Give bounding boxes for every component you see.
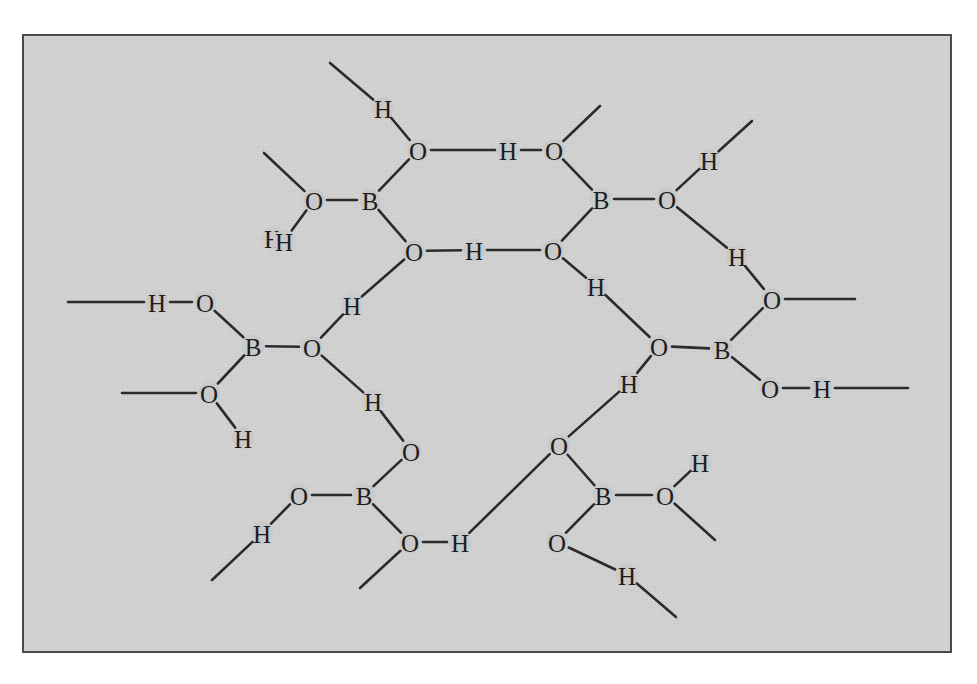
atom-label-H6b: H [234,426,252,453]
atom-label-H6a: H [148,290,166,317]
atom-label-H2a: H [499,138,517,165]
bond-B2-O2a [563,159,592,189]
bond-B6-O6a [215,311,244,337]
bond-B3-O3a [731,308,763,340]
dangling-bond-layer [68,63,908,617]
atom-label-O3c: O [761,376,779,403]
atom-label-layer: BBBBBBOOOOOOOOOOOOOOOOOOHHHHHHHHHHHHHHHH… [146,96,833,590]
atom-label-H4c: H [620,371,638,398]
atom-label-O3b: O [650,334,668,361]
atom-label-O4c: O [550,433,568,460]
dangling-bond-7 [637,583,676,617]
bond-B3-O3c [732,357,760,380]
bond-O1c-H2c [427,250,461,251]
atom-label-O3a: O [763,287,781,314]
bond-O4a-H4b [569,548,615,570]
bond-B5-O5a [373,504,401,532]
dangling-bond-9 [212,542,253,580]
bond-H3a-O3a [745,266,764,289]
bond-H4c-O4c [569,392,620,437]
atom-label-B2: B [593,187,610,214]
atom-label-B3: B [714,337,731,364]
bond-B1-O1c [378,210,405,241]
bond-B1-O1a [379,159,409,190]
bond-B4-O4c [568,455,595,485]
atom-label-O6b: O [303,335,321,362]
atom-label-H2b: H [700,148,718,175]
bond-B4-O4a [566,504,594,532]
bond-O2b-H3a [677,207,727,248]
atom-label-H3a: H [728,244,746,271]
atom-label-H2c: H [465,238,483,265]
dangling-bond-6 [675,504,715,540]
bond-O3b-H4c [637,356,651,373]
atom-label-H6c: H [275,229,293,256]
bond-H3b-O3b [605,295,649,337]
bond-O2b-H2b [677,169,700,190]
atom-label-H3c: H [813,376,831,403]
bond-O4b-H4a [674,471,690,486]
bond-O6b-H1c [321,314,343,337]
atom-label-O2c: O [544,238,562,265]
atom-label-B1: B [362,188,379,215]
atom-label-O6a: O [196,290,214,317]
atom-label-H5c: H [364,389,382,416]
bond-O6c-H6b [217,403,235,427]
bond-B2-O2c [562,208,592,240]
dangling-bond-2 [563,106,600,141]
atom-label-H4a: H [691,450,709,477]
atom-label-O2a: O [545,138,563,165]
atom-label-B5: B [356,483,373,510]
atom-label-O1b: O [305,188,323,215]
atom-label-B6: B [245,334,262,361]
dangling-bond-3 [719,121,752,151]
dangling-bond-8 [360,551,400,588]
atom-label-H4b: H [618,563,636,590]
dangling-bond-1 [264,153,305,191]
bond-H5c-O6b [322,356,364,393]
atom-label-O5a: O [401,530,419,557]
atom-label-O4b: O [656,483,674,510]
atom-label-O5b: O [290,483,308,510]
atom-label-O6c: O [200,381,218,408]
atom-label-H1a: H [374,96,392,123]
bond-O2c-H3b [563,258,586,277]
atom-label-O1c: O [405,239,423,266]
bond-B3-O3b [672,347,709,349]
atom-label-H3b: H [587,274,605,301]
bond-O5c-H5c [381,411,403,440]
atom-label-O2b: O [658,187,676,214]
structure-svg: BBBBBBOOOOOOOOOOOOOOOOOOHHHHHHHHHHHHHHHH… [0,0,977,684]
bond-B6-O6b [266,346,299,347]
figure-scene: BBBBBBOOOOOOOOOOOOOOOOOOHHHHHHHHHHHHHHHH… [0,0,977,684]
bond-H1c-O1c [362,260,404,297]
dangling-bond-0 [330,63,373,100]
bond-B6-O6c [218,355,244,383]
atom-label-O1a: O [409,138,427,165]
bond-O4c-H5a [469,454,549,533]
bond-O5b-H5b [271,504,290,523]
atom-label-O4a: O [548,530,566,557]
atom-label-O5c: O [402,439,420,466]
atom-label-H5b: H [253,521,271,548]
atom-label-H5a: H [451,530,469,557]
bond-B5-O5c [373,460,401,486]
atom-label-B4: B [595,483,612,510]
atom-label-H1c: H [343,293,361,320]
bond-O1a-H1a [391,118,409,140]
